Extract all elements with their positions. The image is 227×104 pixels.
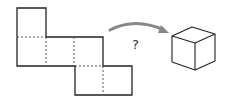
fold-arrow-icon <box>110 24 169 34</box>
puzzle-diagram <box>0 0 227 104</box>
question-mark: ? <box>132 37 139 52</box>
cube-icon <box>172 27 215 70</box>
cube-net <box>17 8 132 95</box>
net-outline <box>17 8 132 95</box>
